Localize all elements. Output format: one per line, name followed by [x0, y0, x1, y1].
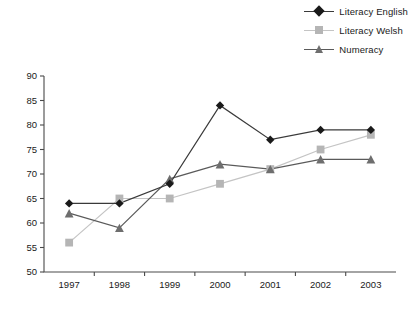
- data-point: [65, 209, 74, 217]
- y-tick-label: 90: [26, 70, 37, 81]
- y-tick-label: 75: [26, 144, 37, 155]
- data-point: [317, 146, 325, 154]
- data-point: [316, 126, 324, 134]
- markers-literacy-english: [65, 101, 375, 207]
- x-tick-label: 1997: [59, 279, 80, 290]
- series-literacy-english: [69, 105, 371, 203]
- y-tick-label: 85: [26, 95, 37, 106]
- line-chart: Literacy English Literacy Welsh Numeracy…: [0, 0, 414, 312]
- x-tick-label: 2002: [310, 279, 331, 290]
- x-tick-label: 1998: [109, 279, 130, 290]
- markers-numeracy: [65, 155, 376, 232]
- x-tick-label: 1999: [159, 279, 180, 290]
- x-tick-label: 2003: [360, 279, 381, 290]
- markers-literacy-welsh: [65, 131, 375, 247]
- data-point: [266, 136, 274, 144]
- plot-area: 5055606570758085901997199819992000200120…: [0, 0, 414, 312]
- y-tick-label: 55: [26, 242, 37, 253]
- y-tick-label: 50: [26, 266, 37, 277]
- data-point: [65, 199, 73, 207]
- series-numeracy: [69, 159, 371, 228]
- y-tick-label: 70: [26, 168, 37, 179]
- data-point: [65, 239, 73, 247]
- y-tick-label: 80: [26, 119, 37, 130]
- data-point: [216, 101, 224, 109]
- y-tick-label: 65: [26, 193, 37, 204]
- y-tick-label: 60: [26, 217, 37, 228]
- x-tick-label: 2001: [260, 279, 281, 290]
- x-tick-label: 2000: [209, 279, 230, 290]
- data-point: [216, 180, 224, 188]
- data-point: [166, 195, 174, 203]
